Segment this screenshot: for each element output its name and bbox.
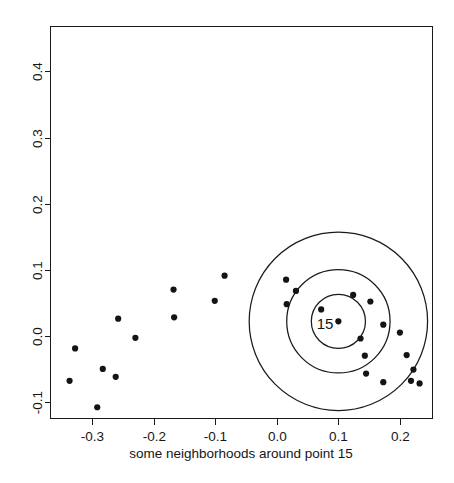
data-point [380,379,386,385]
x-tick-label: 0.1 [329,429,348,444]
data-point [170,286,176,292]
data-point [66,378,72,384]
data-point [113,374,119,380]
data-point [404,352,410,358]
data-point [94,404,100,410]
data-point [284,301,290,307]
point-annotations: 15 [317,315,334,332]
data-point [408,378,414,384]
data-point [410,366,416,372]
scatter-plot-figure: -0.3-0.2-0.10.00.10.2 -0.10.00.10.20.30.… [0,0,454,483]
y-tick-label: 0.1 [30,261,45,280]
x-tick-label: 0.0 [268,429,287,444]
data-point [100,366,106,372]
x-tick-label: -0.1 [204,429,227,444]
y-tick-label: 0.0 [30,327,45,346]
data-point [318,306,324,312]
data-point [293,288,299,294]
data-point [357,335,363,341]
data-point [363,370,369,376]
y-tick-label: 0.4 [30,62,45,81]
data-point [115,316,121,322]
data-point [72,345,78,351]
figure-background [0,0,454,483]
data-point [367,298,373,304]
data-point [350,292,356,298]
y-tick-label: -0.1 [30,391,45,414]
data-point [397,329,403,335]
data-point [283,277,289,283]
y-tick-label: 0.3 [30,129,45,148]
center-point-label: 15 [317,315,334,332]
data-point [362,353,368,359]
x-tick-label: -0.2 [143,429,166,444]
data-point [212,298,218,304]
y-tick-label: 0.2 [30,195,45,214]
x-tick-label: 0.2 [391,429,410,444]
data-point [132,335,138,341]
x-axis-title: some neighborhoods around point 15 [129,446,353,461]
chart-canvas: -0.3-0.2-0.10.00.10.2 -0.10.00.10.20.30.… [0,0,454,483]
data-point [221,273,227,279]
data-point [416,380,422,386]
data-point [380,322,386,328]
x-tick-label: -0.3 [81,429,104,444]
data-point [335,318,341,324]
data-point [171,314,177,320]
